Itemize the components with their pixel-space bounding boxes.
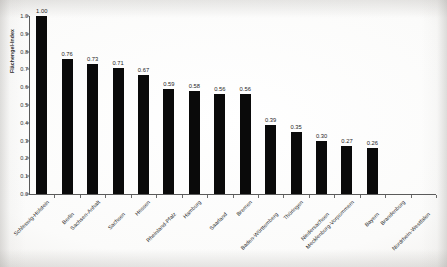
x-tick-mark: [283, 195, 284, 198]
bar: [163, 89, 174, 194]
bar: [341, 146, 352, 194]
bar: [138, 75, 149, 194]
x-tick-mark: [309, 195, 310, 198]
x-category-label: Nordrhein-Westfalen: [391, 211, 432, 252]
bar-value-label: 0.59: [163, 81, 174, 87]
x-category-label: Hessen: [134, 199, 152, 217]
x-tick-mark: [334, 195, 335, 198]
bar-value-label: 0.27: [341, 138, 352, 144]
bar: [87, 64, 98, 194]
bar-value-label: 0.56: [240, 86, 251, 92]
x-category-label: Brandenburg: [379, 199, 406, 226]
x-tick-mark: [411, 195, 412, 198]
bar-value-label: 0.76: [62, 51, 73, 57]
x-category-label: Bayern: [364, 211, 381, 228]
bar-value-label: 0.39: [265, 117, 276, 123]
x-tick-mark: [207, 195, 208, 198]
x-tick-mark: [80, 195, 81, 198]
bar: [189, 91, 200, 194]
bar-value-label: 0.73: [87, 56, 98, 62]
bar: [367, 148, 378, 194]
x-tick-mark: [233, 195, 234, 198]
bar: [214, 94, 225, 194]
x-tick-mark: [182, 195, 183, 198]
x-tick-mark: [258, 195, 259, 198]
bar-value-label: 0.30: [316, 133, 327, 139]
bar: [316, 141, 327, 194]
x-category-label: Sachsen: [107, 211, 127, 231]
x-tick-mark: [385, 195, 386, 198]
bar: [62, 59, 73, 194]
x-tick-mark: [131, 195, 132, 198]
bar-value-label: 0.67: [138, 67, 149, 73]
x-category-label: Rheinland-Pfalz: [145, 211, 177, 243]
x-tick-mark: [54, 195, 55, 198]
bar: [113, 68, 124, 194]
bar-value-label: 0.71: [112, 60, 123, 66]
x-category-label: Baden-Württemberg: [239, 211, 279, 251]
x-category-label: Thüringen: [282, 199, 304, 221]
bar: [265, 125, 276, 194]
bar: [240, 94, 251, 194]
x-tick-mark: [436, 195, 437, 198]
bar-value-label: 0.26: [367, 140, 378, 146]
bar-value-label: 0.58: [189, 83, 200, 89]
bar-chart: Flächengel-Index 0.00.10.20.30.40.50.60.…: [0, 0, 447, 267]
bar-value-label: 0.56: [214, 86, 225, 92]
x-category-label: Bremen: [235, 199, 253, 217]
x-tick-mark: [156, 195, 157, 198]
y-axis-line: [29, 16, 30, 195]
bar-value-label: 1.00: [36, 8, 47, 14]
bar: [36, 16, 47, 194]
x-category-label: Saarland: [208, 211, 228, 231]
bar-value-label: 0.35: [290, 124, 301, 130]
x-tick-mark: [360, 195, 361, 198]
x-category-label: Hamburg: [182, 199, 202, 219]
x-tick-mark: [105, 195, 106, 198]
bar: [291, 132, 302, 194]
